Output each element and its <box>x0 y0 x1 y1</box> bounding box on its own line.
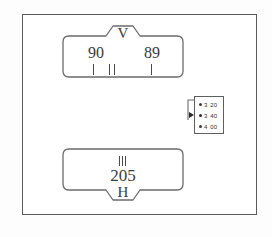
screenshot-root: V 90 89 3 20 3 40 4 00 <box>0 0 272 237</box>
horizontal-panel-value: 205 <box>83 167 163 184</box>
vertical-panel-value-right: 89 <box>132 45 172 61</box>
vertical-panel-value-left: 90 <box>76 45 116 61</box>
bullet-icon <box>199 103 202 106</box>
tick-mark <box>114 64 115 75</box>
option-minor-value: 40 <box>210 113 217 119</box>
horizontal-display-panel[interactable]: 205 H <box>62 148 184 200</box>
tick-mark <box>119 156 120 166</box>
bullet-icon <box>199 114 202 117</box>
option-list-item-selected[interactable]: 3 40 <box>195 110 223 121</box>
option-major-value: 3 <box>204 102 207 108</box>
option-major-value: 4 <box>204 124 207 130</box>
horizontal-panel-notch-letter: H <box>62 185 184 200</box>
tick-mark <box>125 156 126 166</box>
vertical-display-panel[interactable]: V 90 89 <box>62 26 184 78</box>
tick-mark <box>109 64 110 75</box>
bullet-icon <box>199 125 202 128</box>
tick-mark <box>122 156 123 166</box>
vertical-panel-tick-marks <box>62 64 184 75</box>
option-minor-value: 20 <box>210 102 217 108</box>
tick-mark <box>151 64 152 75</box>
vertical-panel-notch-letter: V <box>62 26 184 41</box>
option-list-item[interactable]: 4 00 <box>195 121 223 132</box>
option-minor-value: 00 <box>210 124 217 130</box>
option-major-value: 3 <box>204 113 207 119</box>
selection-arrow-icon <box>189 112 194 118</box>
option-list-box[interactable]: 3 20 3 40 4 00 <box>194 96 224 134</box>
option-list-item[interactable]: 3 20 <box>195 99 223 110</box>
tick-mark <box>93 64 94 75</box>
